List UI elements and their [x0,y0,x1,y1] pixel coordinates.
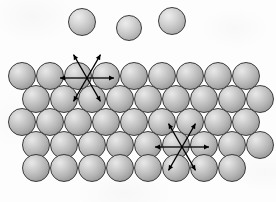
lattice-sphere-r4-c9 [246,131,274,159]
lattice-sphere-r5-c6 [162,154,190,182]
arrow-head-240deg [74,55,79,61]
lattice-sphere-r5-c2 [50,154,78,182]
free-sphere-1 [68,8,96,36]
lattice-sphere-r5-c3 [78,154,106,182]
lattice-sphere-r5-c8 [218,154,246,182]
lattice-sphere-r5-c1 [22,154,50,182]
lattice-sphere-r5-c4 [106,154,134,182]
sphere-lattice-figure [0,0,276,202]
arrow-head-300deg [96,55,101,61]
free-sphere-2 [116,15,142,41]
lattice-sphere-r5-c7 [190,154,218,182]
lattice-sphere-r5-c5 [134,154,162,182]
free-sphere-3 [158,7,186,35]
